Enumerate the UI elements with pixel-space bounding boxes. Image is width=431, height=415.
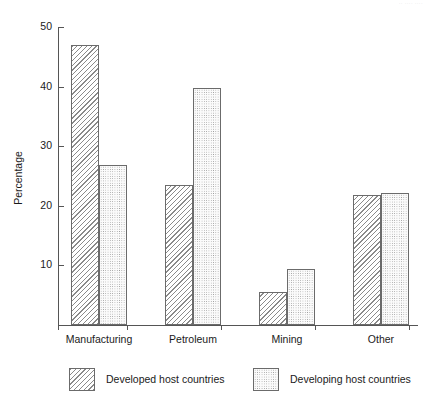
y-tick-label: 50 [6, 21, 52, 32]
bar-petroleum-developed [165, 185, 193, 325]
legend-label-developed: Developed host countries [106, 373, 225, 385]
legend-label-developing: Developing host countries [290, 373, 411, 385]
x-tick-mark [127, 325, 128, 330]
x-tick-mark [221, 325, 222, 330]
bar-manufacturing-developed [71, 45, 99, 325]
y-tick-mark [58, 27, 64, 28]
chart-legend: Developed host countries Developing host… [0, 366, 431, 398]
y-tick-mark [58, 87, 64, 88]
y-tick-mark [58, 206, 64, 207]
x-axis-label-other: Other [336, 333, 426, 346]
legend-item-developing: Developing host countries [253, 366, 411, 392]
bar-mining-developed [259, 292, 287, 325]
x-axis-label-petroleum: Petroleum [148, 333, 238, 346]
y-tick-label: 20 [6, 200, 52, 211]
x-axis-line [58, 325, 418, 326]
bar-chart-figure: ·· ···· ···· Percentage 1020304050 Manuf… [0, 0, 431, 415]
plot-area: Percentage 1020304050 ManufacturingPetro… [0, 0, 431, 415]
x-tick-mark [315, 325, 316, 330]
legend-item-developed: Developed host countries [69, 366, 225, 392]
y-tick-mark [58, 146, 64, 147]
x-axis-label-mining: Mining [242, 333, 332, 346]
y-tick-label: 40 [6, 81, 52, 92]
x-tick-mark-origin [58, 325, 59, 330]
legend-swatch-diagonal-hatch-icon [69, 368, 95, 391]
x-axis-label-manufacturing: Manufacturing [54, 333, 144, 346]
bar-manufacturing-developing [99, 165, 127, 325]
bar-other-developing [381, 193, 409, 325]
bar-mining-developing [287, 269, 315, 325]
bar-petroleum-developing [193, 88, 221, 325]
bar-other-developed [353, 195, 381, 325]
legend-swatch-dotted-icon [253, 368, 279, 391]
y-tick-label: 30 [6, 140, 52, 151]
y-axis-line [58, 27, 59, 326]
y-tick-label: 10 [6, 259, 52, 270]
y-tick-mark [58, 265, 64, 266]
x-tick-mark [409, 325, 410, 330]
